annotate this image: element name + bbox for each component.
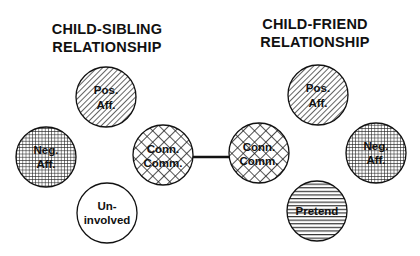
node-label-line2: involved	[84, 214, 131, 226]
node-fr-pretend: Pretend	[287, 181, 347, 241]
node-label-line1: Un-	[97, 200, 116, 212]
node-sib-neg-aff: Neg. Aff.	[16, 127, 76, 187]
node-fr-conn-comm: Conn. Comm.	[229, 123, 289, 183]
node-sib-uninvolved: Un- involved	[77, 183, 137, 243]
node-label-line1: Pos.	[94, 84, 118, 96]
node-label-line2: Aff.	[36, 158, 55, 170]
node-fr-pos-aff: Pos. Aff.	[288, 65, 348, 125]
node-label-line1: Neg.	[34, 144, 59, 156]
node-sib-pos-aff: Pos. Aff.	[76, 67, 136, 127]
node-label-line1: Conn.	[147, 143, 180, 155]
node-label-line2: Comm.	[240, 155, 279, 167]
relationship-diagram: Pos. Aff. Neg. Aff. Conn. Comm. Un- invo…	[0, 0, 420, 256]
node-label-line1: Conn.	[243, 141, 276, 153]
node-label-line2: Aff.	[96, 99, 115, 111]
node-label-line1: Neg.	[364, 140, 389, 152]
node-label-line2: Comm.	[144, 157, 183, 169]
node-fr-neg-aff: Neg. Aff.	[346, 123, 406, 183]
node-label-line2: Aff.	[308, 97, 327, 109]
node-label-line2: Aff.	[366, 154, 385, 166]
node-sib-conn-comm: Conn. Comm.	[133, 125, 193, 185]
node-label-line1: Pretend	[296, 205, 339, 217]
node-label-line1: Pos.	[306, 82, 330, 94]
